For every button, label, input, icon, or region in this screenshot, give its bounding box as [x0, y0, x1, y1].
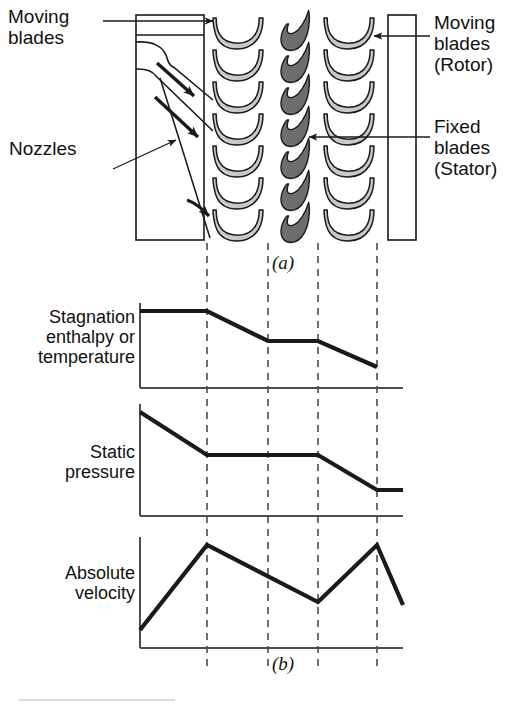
caption-b: (b)	[272, 653, 294, 675]
moving-blade-column-1	[213, 18, 263, 241]
label-moving-blades-rotor: Moving blades (Rotor)	[434, 12, 495, 75]
fixed-blade-column	[281, 10, 309, 242]
static-pressure-curve	[140, 412, 403, 490]
axis-label-absolute-velocity: Absolute velocity	[8, 563, 135, 603]
absolute-velocity-curve	[140, 545, 403, 630]
chart-static-pressure	[140, 404, 403, 516]
caption-a: (a)	[272, 252, 294, 274]
rotor-casing	[388, 15, 416, 240]
turbine-stage-figure: Moving blades Moving blades (Rotor) Fixe…	[0, 0, 513, 706]
schematic-group	[103, 10, 430, 242]
nozzle-housing	[136, 15, 204, 240]
label-fixed-blades-stator: Fixed blades (Stator)	[434, 116, 497, 179]
chart-stagnation	[140, 303, 403, 388]
label-nozzles: Nozzles	[9, 138, 77, 159]
axis-label-stagnation: Stagnation enthalpy or temperature	[8, 307, 135, 367]
chart-absolute-velocity	[140, 537, 403, 648]
label-moving-blades-left: Moving blades	[8, 6, 69, 48]
moving-blade-column-2	[324, 18, 374, 241]
axis-label-static-pressure: Static pressure	[8, 442, 135, 482]
stagnation-curve	[140, 311, 377, 367]
